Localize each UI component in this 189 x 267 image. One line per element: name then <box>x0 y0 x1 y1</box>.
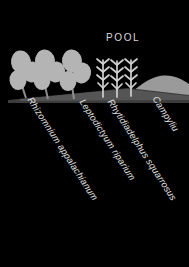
plant-feathery-group <box>97 59 137 97</box>
plant-rhizomnium-clump <box>9 49 93 99</box>
moss-habitat-diagram: POOL Rhizomnium appalachianum Leptodicty… <box>0 0 189 267</box>
pool-label: POOL <box>106 33 140 43</box>
habitat-illustration <box>0 0 189 267</box>
plant-round-leaved <box>33 49 67 99</box>
plant-round-leaved <box>59 49 93 99</box>
